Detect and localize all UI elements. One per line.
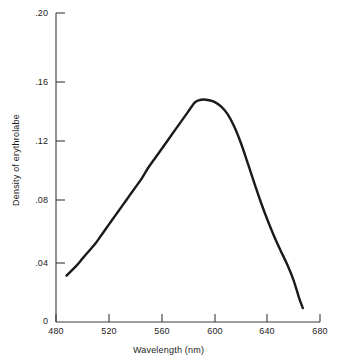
y-tick-label: .04 xyxy=(22,258,48,268)
y-axis-title: Density of erythrolabe xyxy=(11,80,21,240)
y-axis-ticks xyxy=(56,13,65,263)
data-series-line xyxy=(67,100,303,309)
x-tick-label: 640 xyxy=(252,326,282,336)
x-tick-label: 480 xyxy=(41,326,71,336)
x-tick-label: 520 xyxy=(94,326,124,336)
x-tick-label: 600 xyxy=(200,326,230,336)
y-tick-label: 0 xyxy=(22,316,48,326)
y-axis-title-wrapper: Density of erythrolabe xyxy=(11,80,25,240)
y-tick-label: .16 xyxy=(22,77,48,87)
x-tick-label: 680 xyxy=(305,326,335,336)
chart-container: .20 .16 .12 .08 .04 0 480 520 560 600 64… xyxy=(0,0,337,362)
x-axis-title: Wavelength (nm) xyxy=(0,345,337,355)
y-tick-label: .20 xyxy=(22,8,48,18)
y-tick-label: .12 xyxy=(22,136,48,146)
chart-plot-svg xyxy=(0,0,337,362)
x-axis-ticks xyxy=(56,314,320,322)
x-tick-label: 560 xyxy=(147,326,177,336)
y-tick-label: .08 xyxy=(22,195,48,205)
